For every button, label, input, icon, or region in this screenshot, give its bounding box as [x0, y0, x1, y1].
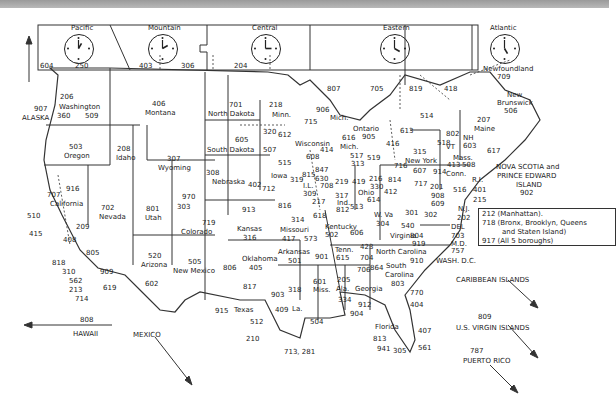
code-517: 517 — [350, 152, 363, 160]
code-847: 847 — [315, 166, 328, 174]
code-809: 809 — [478, 313, 491, 321]
code-409: 409 — [275, 306, 288, 314]
code-616: 616 — [342, 134, 355, 142]
code-817: 817 — [243, 283, 256, 291]
code-707: 707 — [47, 191, 60, 199]
code-423: 423 — [360, 243, 373, 251]
code-606: 606 — [350, 229, 363, 237]
code-719: 719 — [202, 219, 215, 227]
code-807: 807 — [327, 85, 340, 93]
california-label: California — [50, 200, 83, 208]
code-910: 910 — [410, 257, 423, 265]
code-418: 418 — [444, 85, 457, 93]
code-770: 770 — [410, 289, 423, 297]
code-612: 612 — [278, 131, 291, 139]
code-415: 415 — [29, 230, 42, 238]
il-label: I.L. — [303, 182, 313, 190]
code-913: 913 — [242, 206, 255, 214]
code-970: 970 — [182, 193, 195, 201]
code-540: 540 — [401, 222, 414, 230]
code-520: 520 — [148, 252, 161, 260]
kansas-label: Kansas — [237, 225, 262, 233]
code-210: 210 — [246, 335, 259, 343]
clock-icon-central — [251, 34, 281, 64]
code-709: 709 — [497, 73, 510, 81]
code-515: 515 — [278, 159, 291, 167]
code-407: 407 — [418, 327, 431, 335]
code-204: 204 — [234, 62, 247, 70]
code-802: 802 — [446, 130, 459, 138]
code-613: 613 — [400, 127, 413, 135]
code-217: 217 — [312, 198, 325, 206]
code-315: 315 — [413, 148, 426, 156]
code-504: 504 — [310, 318, 323, 326]
nova-scotia-label-3: ISLAND — [516, 181, 542, 189]
code-703: 703 — [451, 232, 464, 240]
code-905: 905 — [362, 133, 375, 141]
code-901: 901 — [315, 253, 328, 261]
code-308: 308 — [206, 169, 219, 177]
code-814: 814 — [388, 176, 401, 184]
code-516: 516 — [453, 186, 466, 194]
code-417: 417 — [282, 235, 295, 243]
mich-label-2: Mich. — [340, 143, 359, 151]
new-brunswick-label: New — [507, 91, 522, 99]
nj-label: N.J. — [458, 205, 470, 213]
clock-icon-atlantic — [490, 34, 520, 64]
code-408: 408 — [63, 236, 76, 244]
code-573: 573 — [304, 235, 317, 243]
south-dakota-label: South Dakota — [207, 146, 254, 154]
tz-label-eastern: Eastern — [383, 24, 410, 32]
code-310: 310 — [62, 268, 75, 276]
code-360: 360 — [57, 112, 70, 120]
hawaii-label: HAWAII — [73, 330, 98, 338]
code-609: 609 — [431, 200, 444, 208]
code-818: 818 — [52, 259, 65, 267]
code-603: 603 — [463, 142, 476, 150]
code-508: 508 — [462, 161, 475, 169]
utah-label: Utah — [145, 214, 162, 222]
new-brunswick-label-2: Brunswick — [497, 99, 533, 107]
code-314: 314 — [291, 216, 304, 224]
code-406: 406 — [152, 100, 165, 108]
code-303: 303 — [177, 203, 190, 211]
code-717: 717 — [414, 180, 427, 188]
code-309: 309 — [303, 190, 316, 198]
code-320: 320 — [263, 128, 276, 136]
wash-dc-label: WASH. D.C. — [436, 257, 476, 265]
nyc-line-212: 212 (Manhattan). — [482, 210, 612, 219]
code-808: 808 — [80, 316, 93, 324]
code-715: 715 — [304, 118, 317, 126]
nova-scotia-label-2: PRINCE EDWARD — [497, 172, 556, 180]
code-401: 401 — [473, 186, 486, 194]
nyc-line-718: 718 (Bronx, Brooklyn, Queens — [482, 219, 612, 228]
code-207: 207 — [477, 116, 490, 124]
code-561: 561 — [418, 344, 431, 352]
code-402: 402 — [248, 181, 261, 189]
code-904: 904 — [350, 310, 363, 318]
south-carolina-label-2: Carolina — [385, 271, 414, 279]
code-907: 907 — [34, 105, 47, 113]
code-206: 206 — [60, 93, 73, 101]
code-334: 334 — [338, 296, 351, 304]
code-205: 205 — [337, 276, 350, 284]
north-dakota-label: North Dakota — [208, 110, 255, 118]
clock-icon-eastern — [380, 34, 410, 64]
code-941: 941 — [377, 345, 390, 353]
code-202: 202 — [457, 214, 470, 222]
georgia-label: Georgia — [355, 285, 382, 293]
new-mexico-label: New Mexico — [173, 267, 215, 275]
code-712: 712 — [262, 185, 275, 193]
md-label: M.D. — [451, 240, 467, 248]
code-505: 505 — [188, 258, 201, 266]
wva-label: W. Va — [374, 211, 393, 219]
code-304: 304 — [376, 220, 389, 228]
code-507: 507 — [263, 146, 276, 154]
code-618: 618 — [313, 212, 326, 220]
code-919: 919 — [412, 240, 425, 248]
mich-label: Mich. — [330, 114, 349, 122]
clock-icon-mountain — [148, 34, 178, 64]
wyoming-label: Wyoming — [158, 164, 191, 172]
washington-label: Washington — [59, 103, 100, 111]
code-313: 313 — [351, 160, 364, 168]
